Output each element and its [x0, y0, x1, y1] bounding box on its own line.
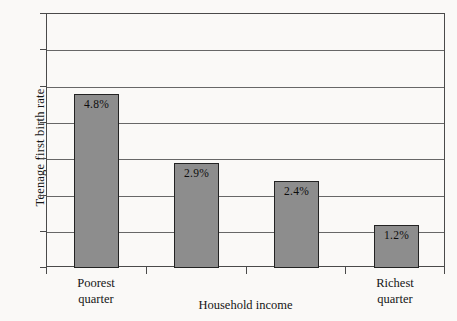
x-tick-mark-2 — [246, 267, 247, 274]
x-tick-mark-0 — [46, 267, 47, 274]
x-tick-mark-1 — [146, 267, 147, 274]
chart-container: Teenage first birth rate 7 6 5 4 3 2 1 0… — [0, 0, 457, 321]
bar-second-quarter: 2.9% — [174, 163, 219, 268]
plot-area: 4.8% 2.9% 2.4% 1.2% — [46, 13, 445, 267]
x-tick-mark-3 — [345, 267, 346, 274]
bar-label-poorest-quarter: 4.8% — [75, 98, 118, 110]
bar-third-quarter: 2.4% — [274, 181, 319, 268]
bar-richest-quarter: 1.2% — [374, 225, 419, 268]
x-tick-mark-4 — [444, 267, 445, 274]
bar-poorest-quarter: 4.8% — [74, 94, 119, 268]
gridline-5 — [47, 87, 444, 88]
bar-label-third-quarter: 2.4% — [275, 185, 318, 197]
x-category-label-richest-line1: Richest — [340, 276, 450, 292]
bar-label-second-quarter: 2.9% — [175, 167, 218, 179]
x-axis-title: Household income — [46, 298, 445, 313]
x-category-label-poorest-line1: Poorest — [41, 276, 151, 292]
bar-label-richest-quarter: 1.2% — [375, 229, 418, 241]
gridline-6 — [47, 50, 444, 51]
